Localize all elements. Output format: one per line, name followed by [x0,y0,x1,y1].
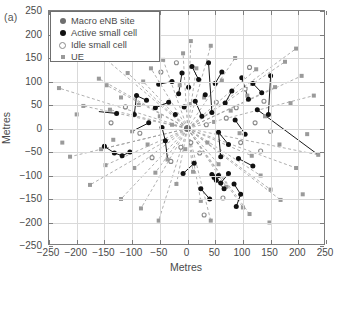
ue-marker [149,66,153,70]
y-tick-label: 250 [8,5,42,16]
ue-marker [178,83,182,87]
active-small-cell-marker [232,181,237,186]
active-small-cell-marker [219,70,224,75]
y-tick [49,129,53,130]
x-tick-label: −150 [92,247,115,258]
legend-row: UE [56,51,159,63]
ue-marker [153,171,157,175]
filled-square-gray-icon [56,55,69,59]
filled-circle-gray-icon [56,18,69,24]
active-small-cell-marker [218,154,223,159]
marker-glyph [60,18,66,24]
macro-association-line [188,129,297,168]
active-small-cell-marker [250,164,255,169]
y-tick [320,105,324,106]
y-tick [320,11,324,12]
active-small-cell-marker [146,120,151,125]
ue-marker [238,131,242,135]
active-small-cell-marker [114,111,119,116]
ue-marker [108,108,112,112]
x-tick-label: −50 [150,247,167,258]
ue-marker [60,141,64,145]
active-small-cell-marker [229,88,234,93]
filled-circle-black-icon [56,30,69,36]
ue-marker [191,170,195,174]
active-small-cell-marker [134,93,139,98]
y-tick [320,58,324,59]
active-small-cell-marker [176,91,181,96]
legend-label: UE [71,52,84,62]
x-tick-label: −200 [64,247,87,258]
idle-small-cell-marker [109,121,113,125]
x-tick [77,240,78,244]
ue-marker [273,85,277,89]
active-small-cell-marker [199,114,204,119]
gridline-vertical [271,11,272,244]
x-tick-label: −100 [120,247,143,258]
active-small-cell-marker [222,186,227,191]
ue-marker [88,183,92,187]
idle-small-cell-marker [169,159,173,163]
active-small-cell-marker [206,60,211,65]
legend-label: Active small cell [71,28,137,38]
idle-small-cell-marker [248,65,252,69]
gridline-vertical [298,11,299,244]
x-tick [326,11,327,15]
y-tick [320,129,324,130]
ue-marker [283,60,287,64]
x-tick [188,240,189,244]
gridline-horizontal [49,105,324,106]
active-small-cell-marker [189,64,194,69]
y-tick-label: 100 [8,75,42,86]
legend-row: Idle small cell [56,39,159,51]
idle-small-cell-marker [253,121,257,125]
idle-small-cell-marker [189,141,193,145]
y-tick-label: 0 [8,122,42,133]
x-tick [215,11,216,15]
active-small-cell-marker [209,110,214,115]
ue-marker [146,142,150,146]
marker-glyph [61,55,65,59]
ue-marker [139,206,143,210]
ue-marker [57,86,61,90]
gridline-horizontal [49,152,324,153]
macro-association-line [188,68,197,128]
y-tick [320,199,324,200]
x-tick [243,11,244,15]
active-small-cell-marker [120,153,125,158]
ue-marker [181,51,185,55]
gridline-vertical [215,11,216,244]
ue-marker [126,71,130,75]
gridline-horizontal [49,176,324,177]
idle-small-cell-marker [202,213,206,217]
x-tick [132,240,133,244]
y-tick [320,223,324,224]
idle-small-cell-marker [174,61,178,65]
gridline-horizontal [49,82,324,83]
y-tick [320,82,324,83]
legend-label: Macro eNB site [71,16,135,26]
ue-marker [312,94,316,98]
active-small-cell-marker [193,99,198,104]
y-tick [320,176,324,177]
idle-small-cell-marker [150,156,154,160]
y-tick-label: 150 [8,52,42,63]
active-small-cell-marker [259,90,264,95]
panel-a: (a) −250−200−150−100−50050100150200250−2… [0,0,352,275]
small-cell-association-line [132,123,149,131]
ue-marker [205,141,209,145]
x-tick [243,240,244,244]
idle-small-cell-marker [204,123,208,127]
ue-marker [305,132,309,136]
y-tick [49,105,53,106]
idle-small-cell-marker [234,106,238,110]
idle-small-cell-marker [224,116,228,120]
active-small-cell-marker [198,186,203,191]
figure-root: (a) −250−200−150−100−50050100150200250−2… [0,0,352,309]
active-small-cell-marker [226,142,231,147]
idle-small-cell-marker [262,99,266,103]
ue-marker [97,77,101,81]
ue-marker [119,95,123,99]
x-tick [215,240,216,244]
open-circle-gray-icon [56,42,69,49]
